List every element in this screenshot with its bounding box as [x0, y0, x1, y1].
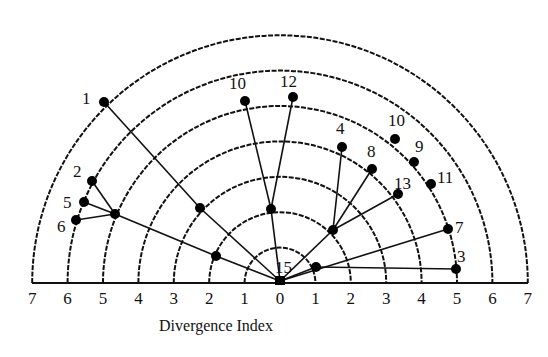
- node-label-leaf-6: 6: [57, 217, 66, 236]
- x-axis-label: Divergence Index: [159, 317, 273, 335]
- x-tick-label: 2: [205, 289, 214, 308]
- node-int-right: [328, 225, 338, 235]
- node-label-leaf-7: 7: [455, 218, 464, 237]
- node-label-leaf-13: 13: [394, 174, 411, 193]
- edge-leaf-1-int-midleft: [104, 102, 200, 208]
- node-label-leaf-4: 4: [336, 119, 345, 138]
- x-tick-label: 3: [382, 289, 391, 308]
- ring-5: [103, 106, 457, 283]
- x-tick-label: 7: [28, 289, 37, 308]
- x-tick-label: 5: [99, 289, 108, 308]
- node-int-top: [266, 204, 276, 214]
- node-label-leaf-2: 2: [73, 162, 82, 181]
- edge-int-left-int-lowleft: [115, 214, 216, 256]
- node-label-leaf-12: 12: [280, 72, 297, 91]
- node-label-leaf-10a: 10: [229, 74, 246, 93]
- center-node-label: 15: [275, 258, 292, 277]
- node-label-leaf-1: 1: [82, 89, 91, 108]
- node-leaf-6: [71, 215, 81, 225]
- x-tick-label: 3: [170, 289, 179, 308]
- node-label-leaf-8: 8: [367, 142, 376, 161]
- x-tick-label: 7: [524, 289, 533, 308]
- edge-leaf-13-int-right: [333, 194, 398, 230]
- node-leaf-1: [99, 97, 109, 107]
- node-int-midleft: [195, 203, 205, 213]
- x-tick-label: 0: [276, 289, 285, 308]
- node-int-lowleft: [211, 251, 221, 261]
- node-leaf-2: [87, 176, 97, 186]
- x-axis-ticks: 765432101234567: [28, 289, 533, 308]
- node-leaf-4: [337, 142, 347, 152]
- node-int-low-right: [311, 262, 321, 272]
- x-tick-label: 4: [134, 289, 143, 308]
- x-tick-label: 4: [417, 289, 426, 308]
- node-leaf-10b: [390, 134, 400, 144]
- node-label-leaf-11: 11: [437, 168, 453, 187]
- x-tick-label: 2: [347, 289, 356, 308]
- node-leaf-5: [79, 197, 89, 207]
- x-tick-label: 5: [453, 289, 462, 308]
- edge-leaf-6-int-left: [76, 214, 115, 220]
- node-leaf-8: [367, 164, 377, 174]
- x-tick-label: 1: [311, 289, 320, 308]
- edge-leaf-12-int-top: [271, 97, 293, 209]
- node-leaf-10a: [240, 96, 250, 106]
- node-label-leaf-5: 5: [63, 193, 72, 212]
- node-leaf-11: [426, 179, 436, 189]
- x-tick-label: 1: [240, 289, 249, 308]
- edge-leaf-10a-int-top: [245, 101, 271, 209]
- divergence-radial-chart: 151101248109111373256 765432101234567 Di…: [0, 0, 548, 357]
- edge-leaf-3-int-low-right: [316, 267, 456, 269]
- node-int-left: [110, 209, 120, 219]
- node-leaf-9: [409, 157, 419, 167]
- edge-int-lowleft-center: [216, 256, 280, 281]
- node-label-leaf-3: 3: [457, 247, 466, 266]
- x-tick-label: 6: [63, 289, 72, 308]
- x-tick-label: 6: [488, 289, 497, 308]
- node-label-leaf-10b: 10: [388, 111, 405, 130]
- node-leaf-7: [443, 224, 453, 234]
- node-leaf-12: [288, 92, 298, 102]
- edge-leaf-7-center: [280, 229, 448, 281]
- edge-int-midleft-center: [200, 208, 280, 281]
- node-label-leaf-9: 9: [415, 137, 424, 156]
- center-node: [275, 276, 285, 285]
